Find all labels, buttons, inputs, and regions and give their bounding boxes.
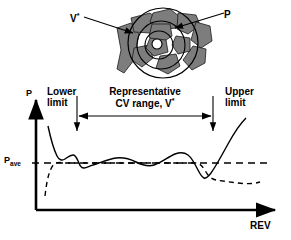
microstructure-schematic [84,8,224,78]
figure-canvas [0,0,291,240]
lower-limit-label: Lower limit [47,86,76,108]
cv-range-label: Representative CV range, V* [92,86,198,110]
y-axis-label: P [26,88,32,98]
response-curve-dashed [45,163,260,196]
figure-root: V* P P Lower limit Representative CV ran… [0,0,291,240]
vstar-pointer-label: V* [70,12,79,25]
p-pointer-label: P [224,9,231,20]
x-axis-label: REV [250,220,271,231]
plot-area [32,96,275,210]
grain-mid-right [172,36,190,54]
response-curve-solid [48,118,246,178]
pave-axis-label: Pave [4,155,21,167]
upper-limit-label: Upper limit [225,86,254,108]
circle-core [152,39,162,49]
